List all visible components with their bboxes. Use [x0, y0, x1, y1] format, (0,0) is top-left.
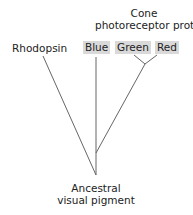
- root-label-line2: visual pigment: [46, 194, 146, 206]
- green-red-branch: [96, 64, 145, 153]
- root-label-line1: Ancestral: [46, 182, 146, 194]
- green-branch: [134, 55, 145, 64]
- root-label: Ancestral visual pigment: [46, 182, 146, 206]
- rhodopsin-branch: [43, 56, 96, 175]
- red-branch: [145, 55, 157, 64]
